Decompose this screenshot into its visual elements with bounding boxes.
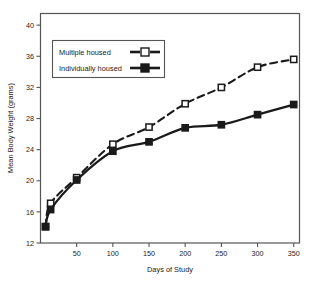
legend-label-individually-housed: Individually housed bbox=[59, 64, 122, 73]
x-tick-label: 350 bbox=[288, 249, 300, 258]
line-chart: 1216202428323640 50100150200250300350 Da… bbox=[0, 0, 314, 285]
data-point-marker bbox=[146, 139, 152, 145]
data-point-marker bbox=[146, 124, 152, 130]
data-point-marker bbox=[218, 84, 224, 90]
filled-square-icon bbox=[141, 64, 149, 72]
data-point-marker bbox=[110, 148, 116, 154]
y-tick-label: 40 bbox=[26, 21, 34, 30]
legend-label-multiple-housed: Multiple housed bbox=[59, 48, 111, 57]
y-tick-label: 16 bbox=[26, 208, 34, 217]
data-point-marker bbox=[254, 112, 260, 118]
x-axis-title: Days of Study bbox=[147, 265, 193, 274]
data-point-marker bbox=[182, 101, 188, 107]
data-point-marker bbox=[254, 64, 260, 70]
data-point-marker bbox=[291, 56, 297, 62]
x-tick-label: 250 bbox=[215, 249, 227, 258]
x-tick-label: 50 bbox=[73, 249, 81, 258]
chart-legend: Multiple housed Individually housed bbox=[53, 41, 165, 78]
y-tick-label: 36 bbox=[26, 52, 34, 61]
data-point-marker bbox=[182, 125, 188, 131]
y-tick-label: 24 bbox=[26, 145, 34, 154]
x-tick-label: 200 bbox=[179, 249, 191, 258]
data-point-marker bbox=[42, 224, 48, 230]
x-tick-label: 150 bbox=[143, 249, 155, 258]
y-tick-label: 20 bbox=[26, 176, 34, 185]
data-point-marker bbox=[74, 177, 80, 183]
data-point-marker bbox=[291, 101, 297, 107]
data-point-marker bbox=[110, 141, 116, 147]
data-point-marker bbox=[48, 206, 54, 212]
x-tick-label: 300 bbox=[252, 249, 264, 258]
y-tick-label: 32 bbox=[26, 83, 34, 92]
y-tick-label: 28 bbox=[26, 114, 34, 123]
chart-figure: 1216202428323640 50100150200250300350 Da… bbox=[0, 0, 314, 285]
open-square-icon bbox=[141, 48, 149, 56]
y-tick-label: 12 bbox=[26, 239, 34, 248]
y-axis-title: Mean Body Weight (grams) bbox=[6, 83, 15, 173]
data-point-marker bbox=[218, 122, 224, 128]
x-tick-label: 100 bbox=[107, 249, 119, 258]
